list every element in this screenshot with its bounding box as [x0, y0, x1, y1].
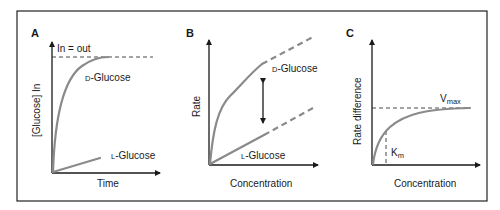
panel-letter-b: B: [186, 27, 194, 39]
glucose-transport-figure: A In = out D-Glucose L-Glucose Time [Glu…: [0, 0, 500, 210]
d-glucose-label: D-Glucose: [272, 63, 318, 74]
x-axis-label: Concentration: [394, 178, 456, 189]
x-axis-label: Concentration: [230, 178, 292, 189]
panel-a: A In = out D-Glucose L-Glucose Time [Glu…: [31, 27, 160, 189]
vmax-label: Vmax: [440, 93, 461, 106]
panel-letter-a: A: [31, 27, 39, 39]
panel-b: B D-Glucose L-Glucose Concentration Rate: [186, 27, 318, 189]
y-axis-label: [Glucose] In: [31, 84, 42, 137]
l-glucose-extension: [264, 108, 313, 135]
y-axis-label: Rate: [191, 95, 202, 117]
y-axis-label: Rate difference: [352, 77, 363, 145]
d-glucose-extension: [262, 37, 313, 64]
l-glucose-label: L-Glucose: [241, 150, 286, 161]
panel-c: C Vmax Km Concentration Rate difference: [346, 27, 480, 189]
km-label: Km: [391, 147, 404, 160]
x-axis-label: Time: [97, 178, 119, 189]
panel-letter-c: C: [346, 27, 354, 39]
l-glucose-label: L-Glucose: [111, 150, 156, 161]
d-glucose-label: D-Glucose: [85, 72, 131, 83]
rate-difference-curve: [373, 108, 470, 164]
l-glucose-line: [53, 158, 100, 172]
plateau-label: In = out: [57, 43, 91, 54]
